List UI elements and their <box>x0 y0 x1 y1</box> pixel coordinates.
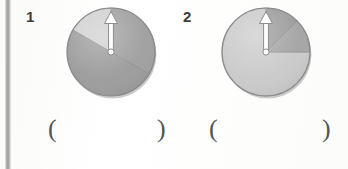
spinner-1-graphic[interactable] <box>61 4 161 104</box>
answer-open-paren: ( <box>209 112 218 146</box>
answer-blank[interactable] <box>62 138 154 139</box>
answer-row-2: ( ) <box>174 112 348 146</box>
problem-2: 2 <box>174 0 348 169</box>
spinner-1[interactable] <box>61 4 161 104</box>
answer-blank[interactable] <box>223 138 319 139</box>
answer-close-paren: ) <box>157 112 166 146</box>
spinner-2-graphic[interactable] <box>216 4 316 104</box>
problem-number: 2 <box>183 9 191 24</box>
answer-open-paren: ( <box>48 112 57 146</box>
pointer-pivot <box>108 49 114 55</box>
pointer-shaft <box>109 21 114 51</box>
problem-1: 1 <box>0 0 174 169</box>
answer-close-paren: ) <box>322 112 331 146</box>
problem-number: 1 <box>26 9 34 24</box>
pointer-pivot <box>263 49 269 55</box>
spinner-2[interactable] <box>216 4 316 104</box>
worksheet-page: 1 <box>0 0 348 169</box>
answer-row-1: ( ) <box>0 112 174 146</box>
pointer-shaft <box>264 21 269 51</box>
